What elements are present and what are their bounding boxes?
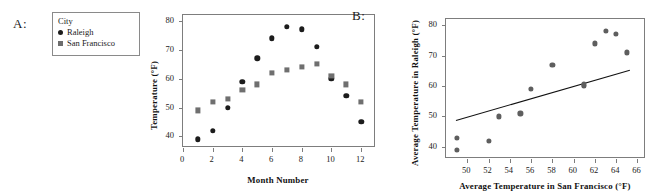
y-axis-tick-label: 50 xyxy=(156,102,174,112)
data-point-raleigh xyxy=(225,105,230,110)
data-point xyxy=(614,32,619,37)
x-axis-tick xyxy=(531,159,532,163)
x-axis-tick xyxy=(183,148,184,152)
y-axis-tick-label: 70 xyxy=(419,50,437,60)
x-axis-tick-label: 52 xyxy=(483,165,492,175)
y-axis-tick-label: 80 xyxy=(419,19,437,29)
data-point-san-francisco xyxy=(195,108,200,113)
y-axis-tick xyxy=(179,108,183,109)
data-point-raleigh xyxy=(284,24,289,29)
data-point xyxy=(497,114,502,119)
y-axis-tick xyxy=(179,50,183,51)
y-axis-tick-label: 80 xyxy=(156,15,174,25)
x-axis-tick-label: 50 xyxy=(462,165,471,175)
x-axis-tick-label: 6 xyxy=(269,154,273,164)
y-axis-tick xyxy=(442,56,446,57)
data-point-san-francisco xyxy=(329,73,334,78)
data-point-san-francisco xyxy=(210,99,215,104)
x-axis-tick-label: 60 xyxy=(568,165,577,175)
x-axis-tick-label: 4 xyxy=(239,154,243,164)
panel-b: B: Average Temperature in Raleigh (°F) A… xyxy=(340,0,665,195)
data-point-san-francisco xyxy=(284,67,289,72)
panel-b-plot-area xyxy=(445,18,645,158)
data-point-san-francisco xyxy=(225,96,230,101)
x-axis-tick-label: 56 xyxy=(526,165,535,175)
x-axis-tick-label: 8 xyxy=(299,154,303,164)
y-axis-tick xyxy=(179,136,183,137)
panel-b-x-axis-title: Average Temperature in San Francisco (°F… xyxy=(459,181,630,191)
x-axis-tick xyxy=(616,159,617,163)
y-axis-tick xyxy=(442,86,446,87)
data-point-san-francisco xyxy=(240,88,245,93)
y-axis-tick-label: 70 xyxy=(156,44,174,54)
data-point-raleigh xyxy=(195,137,200,142)
y-axis-tick-label: 60 xyxy=(419,80,437,90)
panel-a-letter: A: xyxy=(13,16,27,32)
data-point xyxy=(624,50,629,55)
x-axis-tick-label: 54 xyxy=(505,165,514,175)
data-point-san-francisco xyxy=(299,64,304,69)
x-axis-tick-label: 66 xyxy=(632,165,641,175)
data-point-raleigh xyxy=(255,56,260,61)
data-point-raleigh xyxy=(240,79,245,84)
x-axis-tick-label: 62 xyxy=(590,165,599,175)
legend-title: City xyxy=(58,16,133,27)
y-axis-tick xyxy=(442,116,446,117)
x-axis-tick xyxy=(213,148,214,152)
panel-a-x-axis-title: Month Number xyxy=(247,175,308,185)
data-point-san-francisco xyxy=(269,70,274,75)
x-axis-tick xyxy=(467,159,468,163)
x-axis-tick-label: 58 xyxy=(547,165,556,175)
y-axis-tick xyxy=(442,25,446,26)
x-axis-tick xyxy=(272,148,273,152)
data-point-san-francisco xyxy=(314,62,319,67)
y-axis-tick-label: 40 xyxy=(419,141,437,151)
x-axis-tick xyxy=(302,148,303,152)
legend-item-label: Raleigh xyxy=(67,27,93,38)
data-point xyxy=(518,111,523,116)
data-point xyxy=(592,41,597,46)
y-axis-tick xyxy=(179,79,183,80)
square-marker-icon xyxy=(58,41,63,46)
x-axis-tick xyxy=(331,148,332,152)
x-axis-tick xyxy=(595,159,596,163)
legend-city: City Raleigh San Francisco xyxy=(52,12,140,56)
data-point-raleigh xyxy=(299,27,304,32)
data-point-raleigh xyxy=(314,44,319,49)
data-point xyxy=(486,138,491,143)
trend-line xyxy=(455,70,629,121)
x-axis-tick xyxy=(242,148,243,152)
data-point xyxy=(454,147,459,152)
y-axis-tick-label: 50 xyxy=(419,110,437,120)
circle-marker-icon xyxy=(58,30,63,35)
x-axis-tick-label: 64 xyxy=(611,165,620,175)
x-axis-tick-label: 0 xyxy=(180,154,184,164)
legend-item-san-francisco: San Francisco xyxy=(58,38,133,49)
x-axis-tick xyxy=(637,159,638,163)
x-axis-tick-label: 2 xyxy=(210,154,214,164)
x-axis-tick xyxy=(489,159,490,163)
x-axis-tick xyxy=(574,159,575,163)
data-point xyxy=(529,86,534,91)
panel-a-y-axis-title: Temperature (°F) xyxy=(149,61,159,130)
y-axis-tick-label: 40 xyxy=(156,130,174,140)
panel-b-letter: B: xyxy=(352,8,365,24)
legend-item-raleigh: Raleigh xyxy=(58,27,133,38)
y-axis-tick xyxy=(442,147,446,148)
legend-item-label: San Francisco xyxy=(67,38,115,49)
data-point xyxy=(454,135,459,140)
panel-a: A: City Raleigh San Francisco Temperatur… xyxy=(0,0,340,195)
data-point-raleigh xyxy=(269,35,274,40)
x-axis-tick xyxy=(510,159,511,163)
data-point-san-francisco xyxy=(255,82,260,87)
data-point-raleigh xyxy=(210,128,215,133)
figure-container: A: City Raleigh San Francisco Temperatur… xyxy=(0,0,665,195)
x-axis-tick xyxy=(552,159,553,163)
y-axis-tick-label: 60 xyxy=(156,73,174,83)
x-axis-tick-label: 10 xyxy=(326,154,335,164)
data-point xyxy=(603,29,608,34)
data-point xyxy=(550,62,555,67)
y-axis-tick xyxy=(179,21,183,22)
